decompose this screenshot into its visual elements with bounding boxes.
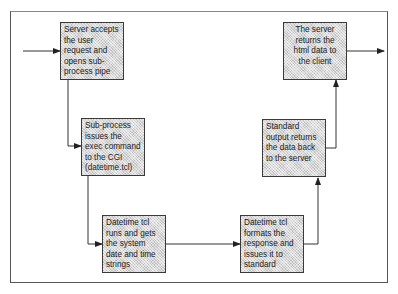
step-text: Sub-process issues the exec command to t… [85, 121, 141, 174]
arrow-step4-to-step5 [304, 178, 318, 244]
step-subprocess-exec: Sub-process issues the exec command to t… [81, 118, 145, 176]
step-text: Standard output returns the data back to… [266, 122, 322, 164]
arrow-step2-to-step3 [88, 176, 102, 244]
step-datetime-formats: Datetime tcl formats the response and is… [240, 215, 304, 273]
arrow-step5-to-step6 [326, 80, 336, 148]
step-text: Datetime tcl formats the response and is… [244, 218, 300, 273]
arrow-step1-to-step2 [68, 80, 81, 146]
step-datetime-runs: Datetime tcl runs and gets the system da… [102, 215, 166, 273]
step-server-accepts-request: Server accepts the user request and open… [60, 22, 124, 80]
step-text: The server returns the html data to the … [287, 25, 343, 67]
step-server-returns-html: The server returns the html data to the … [283, 22, 347, 80]
step-text: Server accepts the user request and open… [64, 25, 120, 78]
step-stdout-returns: Standard output returns the data back to… [262, 119, 326, 177]
step-text: Datetime tcl runs and gets the system da… [106, 218, 162, 271]
